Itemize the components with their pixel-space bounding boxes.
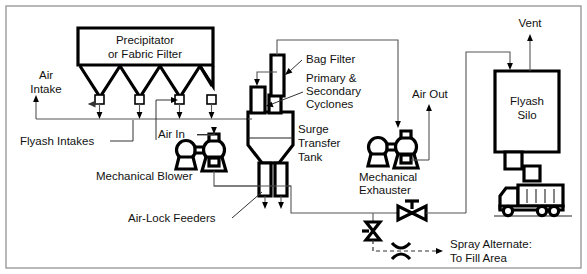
blower-motor-base [176, 157, 196, 169]
surge-tank-label-line1: Surge [298, 123, 329, 135]
truck-wheel [503, 206, 512, 215]
air-lock-feeder-arrows [262, 196, 284, 209]
air-lock-feeders [259, 163, 287, 196]
air-intake-arrow [33, 95, 39, 119]
bag-filter-column [271, 55, 284, 96]
bag-filter-label: Bag Filter [306, 53, 355, 65]
air-lock-feeders-leader [232, 192, 262, 218]
air-in-label: Air In [158, 128, 185, 140]
precipitator-hoppers [80, 66, 213, 97]
truck-wheel [537, 206, 546, 215]
air-lock-feeder [275, 163, 287, 196]
surge-transfer-tank [248, 55, 293, 163]
surge-tank-label-line3: Tank [298, 151, 323, 163]
mechanical-exhauster-label-line2: Exhauster [359, 184, 411, 196]
mechanical-exhauster [368, 131, 418, 168]
exhauster-inlet-stub [401, 131, 411, 138]
cyclones-label-line1: Primary & [306, 72, 357, 84]
precipitator-label-line2: or Fabric Filter [108, 48, 182, 60]
bag-filter-leader [285, 60, 302, 75]
silo-vent-arrow [527, 34, 533, 71]
flyash-silo-label-line1: Flyash [510, 95, 544, 107]
air-lock-feeder [259, 163, 271, 196]
cyclones-label-line3: Cyclones [306, 98, 354, 110]
exhauster-motor-base [368, 154, 388, 166]
flyash-intake-valve[interactable] [135, 95, 144, 104]
silo-discharge-chute [505, 152, 540, 181]
spray-alternate-label-line1: Spray Alternate: [450, 238, 532, 250]
flyash-silo-label-line2: Silo [517, 109, 536, 121]
truck-wheel [549, 206, 558, 215]
air-lock-feeders-label: Air-Lock Feeders [128, 212, 216, 224]
flyash-intake-valve[interactable] [95, 95, 104, 104]
cyclones-label-line2: Secondary [306, 85, 361, 97]
surge-tank-label-line2: Transfer [298, 137, 341, 149]
vent-label: Vent [518, 17, 542, 29]
dump-truck [494, 185, 572, 216]
gate-valve-horizontal[interactable] [398, 201, 426, 220]
blower-outlet-stub [209, 158, 219, 166]
mechanical-exhauster-label-line1: Mechanical [359, 171, 417, 183]
secondary-cyclone-riser [251, 87, 265, 113]
air-intake-label-line1: Air [39, 69, 53, 81]
exhauster-outlet-stub [401, 155, 411, 163]
flyash-intake-valve[interactable] [207, 95, 216, 104]
diagram-canvas: Precipitator or Fabric Filter Air Intake… [0, 0, 587, 274]
precipitator-label-line1: Precipitator [116, 34, 174, 46]
air-in-arrow [197, 127, 217, 135]
flyash-intakes-label: Flyash Intakes [20, 135, 94, 147]
truck-dump-body [518, 185, 563, 206]
flyash-silo [495, 71, 559, 181]
mechanical-blower-label: Mechanical Blower [96, 170, 193, 182]
gate-valve-vertical[interactable] [362, 222, 380, 240]
air-intake-label-line2: Intake [30, 83, 61, 95]
air-out-label: Air Out [412, 88, 449, 100]
flyash-system-diagram: Precipitator or Fabric Filter Air Intake… [0, 0, 587, 274]
spray-alternate-label-line2: To Fill Area [450, 252, 507, 264]
